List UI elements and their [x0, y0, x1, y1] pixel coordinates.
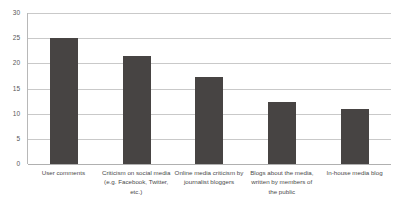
bar[interactable] — [195, 77, 223, 164]
bar-slot — [246, 13, 319, 164]
y-axis-tick-label: 5 — [16, 136, 20, 143]
y-axis-tick-labels: 051015202530 — [0, 13, 24, 164]
x-axis-category-label: Criticism on social media (e.g. Facebook… — [100, 168, 173, 218]
bar-slot — [28, 13, 101, 164]
y-axis-tick-label: 20 — [13, 60, 20, 67]
bar[interactable] — [268, 102, 296, 164]
bar-chart-figure: 051015202530 User commentsCriticism on s… — [0, 0, 403, 220]
y-axis-tick-label: 15 — [13, 85, 20, 92]
bar-slot — [101, 13, 174, 164]
y-axis-tick-label: 30 — [13, 10, 20, 17]
y-axis-tick-label: 0 — [16, 161, 20, 168]
x-axis-category-label: Blogs about the media, written by member… — [245, 168, 318, 218]
bar-slot — [173, 13, 246, 164]
y-axis-tick-label: 25 — [13, 35, 20, 42]
x-axis-category-labels: User commentsCriticism on social media (… — [27, 168, 391, 218]
x-axis-category-label: User comments — [27, 168, 100, 218]
plot-area — [27, 13, 391, 164]
bar[interactable] — [50, 38, 78, 164]
y-axis-tick-label: 10 — [13, 110, 20, 117]
bar-slot — [318, 13, 391, 164]
x-axis-category-label: In-house media blog — [318, 168, 391, 218]
x-axis-category-label: Online media criticism by journalist blo… — [173, 168, 246, 218]
gridline — [28, 164, 391, 165]
bar[interactable] — [123, 56, 151, 164]
bar-series — [28, 13, 391, 164]
bar[interactable] — [341, 109, 369, 164]
